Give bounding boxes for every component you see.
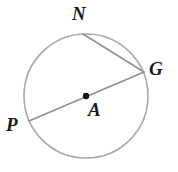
point-label-n: N bbox=[72, 4, 86, 23]
circle-diagram-canvas bbox=[0, 0, 178, 172]
geometry-figure: N G P A bbox=[0, 0, 178, 172]
point-label-p: P bbox=[6, 115, 18, 134]
point-label-g: G bbox=[149, 59, 163, 78]
point-label-a: A bbox=[88, 100, 101, 119]
